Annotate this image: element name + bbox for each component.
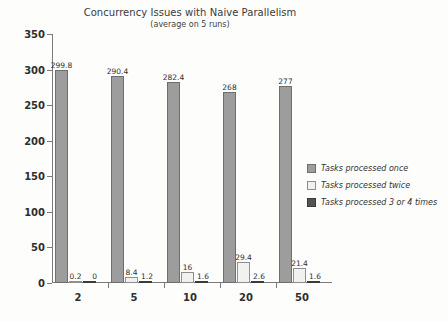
y-axis-tick: [47, 70, 52, 71]
x-axis-tick-label: 5: [131, 292, 138, 303]
chart-subtitle: (average on 5 runs): [40, 19, 340, 30]
legend-item-label: Tasks processed once: [321, 164, 408, 173]
bar-group: 282.4161.610: [167, 34, 213, 283]
legend-item-label: Tasks processed 3 or 4 times: [321, 198, 437, 207]
legend-item[interactable]: Tasks processed once: [307, 160, 445, 177]
y-axis-tick: [47, 283, 52, 284]
bar[interactable]: 0.2: [69, 281, 82, 283]
bar[interactable]: 1.6: [195, 281, 208, 283]
legend-swatch-icon: [307, 181, 316, 190]
bar[interactable]: 0: [83, 281, 96, 283]
page-title: Concurrency Issues with Naive Parallelis…: [40, 6, 340, 19]
x-axis-tick-label: 2: [75, 292, 82, 303]
y-axis-tick: [47, 34, 52, 35]
x-axis-tick: [108, 283, 109, 288]
y-axis-tick: [47, 212, 52, 213]
bar[interactable]: 299.8: [55, 70, 68, 283]
y-axis-tick-label: 0: [38, 278, 45, 289]
y-axis-tick: [47, 141, 52, 142]
bar-value-label: 282.4: [163, 73, 184, 82]
bar-value-label: 21.4: [291, 259, 308, 268]
bar-value-label: 1.6: [309, 272, 321, 281]
bar-value-label: 16: [183, 263, 193, 272]
bar[interactable]: 29.4: [237, 262, 250, 283]
bar[interactable]: 277: [279, 86, 292, 283]
legend-swatch-icon: [307, 198, 316, 207]
title-block: Concurrency Issues with Naive Parallelis…: [40, 6, 340, 30]
x-axis-tick-label: 50: [295, 292, 309, 303]
x-axis-tick: [276, 283, 277, 288]
chart-figure: Concurrency Issues with Naive Parallelis…: [0, 0, 448, 322]
bar-value-label: 290.4: [107, 67, 128, 76]
bar[interactable]: 268: [223, 92, 236, 283]
legend-item[interactable]: Tasks processed 3 or 4 times: [307, 194, 445, 211]
legend-item[interactable]: Tasks processed twice: [307, 177, 445, 194]
bar[interactable]: 1.2: [139, 281, 152, 283]
bar-value-label: 1.2: [141, 272, 153, 281]
bar-value-label: 1.6: [197, 272, 209, 281]
x-axis-tick-label: 10: [183, 292, 197, 303]
bar-value-label: 8.4: [126, 268, 138, 277]
bar-group: 26829.42.620: [223, 34, 269, 283]
y-axis-tick-label: 350: [24, 29, 45, 40]
bar[interactable]: 16: [181, 272, 194, 283]
bar-group: 27721.41.650: [279, 34, 325, 283]
x-axis-tick: [164, 283, 165, 288]
bar-group: 290.48.41.25: [111, 34, 157, 283]
bar[interactable]: 21.4: [293, 268, 306, 283]
bar-group: 299.80.202: [55, 34, 101, 283]
legend: Tasks processed onceTasks processed twic…: [307, 160, 445, 211]
y-axis-tick: [47, 247, 52, 248]
bar-value-label: 268: [222, 83, 236, 92]
x-axis-tick-label: 20: [239, 292, 253, 303]
bar-value-label: 29.4: [235, 253, 252, 262]
x-axis-tick: [220, 283, 221, 288]
bar[interactable]: 2.6: [251, 281, 264, 283]
y-axis-tick: [47, 105, 52, 106]
y-axis-tick-label: 300: [24, 64, 45, 75]
legend-swatch-icon: [307, 164, 316, 173]
y-axis-tick-label: 100: [24, 206, 45, 217]
bar[interactable]: 290.4: [111, 76, 124, 283]
y-axis-tick-label: 250: [24, 100, 45, 111]
bar[interactable]: 282.4: [167, 82, 180, 283]
plot-area: 050100150200250300350 299.80.202290.48.4…: [52, 34, 332, 283]
y-axis-tick-label: 150: [24, 171, 45, 182]
bar-value-label: 2.6: [253, 272, 265, 281]
bar-value-label: 299.8: [51, 61, 72, 70]
bar-value-label: 277: [278, 77, 292, 86]
bar-value-label: 0.2: [70, 272, 82, 281]
bar[interactable]: 1.6: [307, 281, 320, 283]
y-axis-tick: [47, 176, 52, 177]
bar-value-label: 0: [92, 272, 97, 281]
y-axis-tick-label: 50: [31, 242, 45, 253]
bar[interactable]: 8.4: [125, 277, 138, 283]
y-axis-tick-label: 200: [24, 135, 45, 146]
y-axis-line: [52, 34, 53, 283]
legend-item-label: Tasks processed twice: [321, 181, 410, 190]
